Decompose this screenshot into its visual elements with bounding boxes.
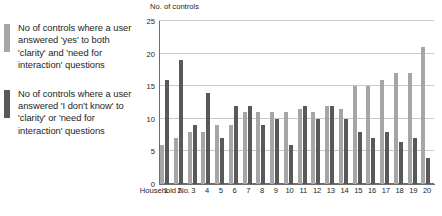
bar-group xyxy=(159,21,173,184)
x-axis-title: Household No. xyxy=(140,186,190,195)
x-tick-label: 18 xyxy=(395,186,403,195)
bar-yes xyxy=(243,112,247,184)
bar-dont-know xyxy=(316,119,320,184)
bar-dont-know xyxy=(193,125,197,184)
x-axis-ticks: 1234567891011121314151617181920 xyxy=(159,186,434,200)
bar-dont-know xyxy=(330,106,334,184)
legend-label-yes: No of controls where a user answered 'ye… xyxy=(18,22,134,72)
bar-dont-know xyxy=(413,138,417,184)
chart-area: No. of controls 0510152025 1234567891011… xyxy=(128,0,442,216)
bar-series-container xyxy=(159,21,434,184)
bar-yes xyxy=(298,109,302,184)
bar-dont-know xyxy=(303,106,307,184)
bar-dont-know xyxy=(399,142,403,184)
y-axis-line xyxy=(159,21,160,184)
x-tick-label: 20 xyxy=(423,186,431,195)
y-axis-ticks: 0510152025 xyxy=(141,21,155,184)
bar-yes xyxy=(284,112,288,184)
x-tick-label: 4 xyxy=(205,186,209,195)
bar-dont-know xyxy=(275,119,279,184)
x-tick-label: 15 xyxy=(354,186,362,195)
bar-group xyxy=(214,21,228,184)
bar-yes xyxy=(311,112,315,184)
plot-area xyxy=(159,21,434,184)
bar-dont-know xyxy=(371,138,375,184)
y-tick-label: 10 xyxy=(141,114,155,123)
x-tick-label: 14 xyxy=(340,186,348,195)
bar-group xyxy=(242,21,256,184)
y-tick-label: 5 xyxy=(141,147,155,156)
bar-yes xyxy=(353,86,357,184)
bar-group xyxy=(173,21,187,184)
x-tick-label: 10 xyxy=(285,186,293,195)
legend-item-dont-know: No of controls where a user answered 'I … xyxy=(4,88,134,138)
bar-yes xyxy=(421,47,425,184)
bar-yes xyxy=(215,125,219,184)
legend-swatch-yes xyxy=(4,24,10,52)
bar-yes xyxy=(339,109,343,184)
bar-group xyxy=(297,21,311,184)
bar-yes xyxy=(380,80,384,184)
y-axis-title: No. of controls xyxy=(150,2,199,11)
bar-group xyxy=(228,21,242,184)
bar-dont-know xyxy=(289,145,293,184)
x-tick-label: 11 xyxy=(299,186,307,195)
x-tick-label: 9 xyxy=(274,186,278,195)
x-tick-label: 19 xyxy=(409,186,417,195)
x-tick-label: 6 xyxy=(233,186,237,195)
bar-group xyxy=(407,21,421,184)
x-tick-label: 5 xyxy=(219,186,223,195)
x-tick-label: 8 xyxy=(260,186,264,195)
x-tick-label: 13 xyxy=(327,186,335,195)
x-axis-line xyxy=(159,184,435,185)
bar-yes xyxy=(408,73,412,184)
bar-yes xyxy=(270,112,274,184)
bar-dont-know xyxy=(385,132,389,184)
bar-yes xyxy=(160,145,164,184)
chart-legend: No of controls where a user answered 'ye… xyxy=(4,22,134,153)
bar-dont-know xyxy=(179,60,183,184)
x-tick-label: 16 xyxy=(368,186,376,195)
legend-swatch-dont-know xyxy=(4,90,10,118)
bar-group xyxy=(352,21,366,184)
bar-yes xyxy=(201,132,205,184)
bar-yes xyxy=(229,125,233,184)
bar-group xyxy=(187,21,201,184)
bar-dont-know xyxy=(344,119,348,184)
x-tick-label: 12 xyxy=(313,186,321,195)
bar-dont-know xyxy=(220,138,224,184)
bar-group xyxy=(338,21,352,184)
bar-group xyxy=(420,21,434,184)
y-tick-label: 25 xyxy=(141,17,155,26)
bar-dont-know xyxy=(248,106,252,184)
bar-dont-know xyxy=(358,132,362,184)
bar-dont-know xyxy=(234,106,238,184)
bar-group xyxy=(269,21,283,184)
chart-figure: No of controls where a user answered 'ye… xyxy=(0,0,442,216)
bar-yes xyxy=(188,132,192,184)
bar-group xyxy=(393,21,407,184)
bar-yes xyxy=(256,112,260,184)
bar-dont-know xyxy=(206,93,210,184)
bar-group xyxy=(324,21,338,184)
bar-yes xyxy=(394,73,398,184)
y-tick-label: 15 xyxy=(141,82,155,91)
bar-group xyxy=(255,21,269,184)
bar-group xyxy=(310,21,324,184)
legend-label-dont-know: No of controls where a user answered 'I … xyxy=(18,88,134,138)
bar-dont-know xyxy=(165,80,169,184)
bar-dont-know xyxy=(426,158,430,184)
bar-group xyxy=(283,21,297,184)
bar-yes xyxy=(174,138,178,184)
x-tick-label: 7 xyxy=(246,186,250,195)
bar-group xyxy=(379,21,393,184)
bar-yes xyxy=(366,86,370,184)
x-tick-label: 3 xyxy=(191,186,195,195)
bar-group xyxy=(365,21,379,184)
y-tick-label: 20 xyxy=(141,49,155,58)
bar-yes xyxy=(325,106,329,184)
bar-dont-know xyxy=(261,125,265,184)
x-tick-label: 17 xyxy=(382,186,390,195)
bar-group xyxy=(200,21,214,184)
legend-item-yes: No of controls where a user answered 'ye… xyxy=(4,22,134,72)
